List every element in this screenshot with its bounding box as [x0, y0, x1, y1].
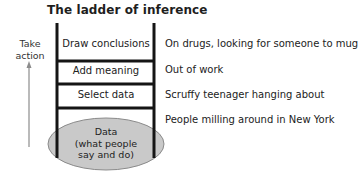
example-data: People milling around in New York — [165, 114, 335, 125]
data-base-line2: (what people — [66, 138, 146, 150]
data-base-label: Data (what people say and do) — [66, 126, 146, 161]
example-select-data: Scruffy teenager hanging about — [165, 89, 324, 100]
rung-label-add-meaning: Add meaning — [59, 65, 153, 76]
example-add-meaning: Out of work — [165, 64, 223, 75]
data-base-line3: say and do) — [66, 149, 146, 161]
rung-label-select-data: Select data — [59, 89, 153, 100]
rung-label-draw-conclusions: Draw conclusions — [59, 38, 153, 49]
data-base-line1: Data — [66, 126, 146, 138]
example-draw-conclusions: On drugs, looking for someone to mug — [165, 38, 358, 49]
up-arrow-icon — [27, 61, 32, 147]
